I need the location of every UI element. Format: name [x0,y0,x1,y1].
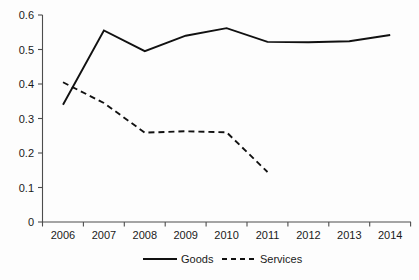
y-tick-label: 0.3 [19,113,34,125]
chart-legend: Goods Services [143,253,303,265]
legend-label-goods: Goods [181,253,214,265]
x-tick-label: 2007 [92,229,116,241]
y-tick-label: 0.1 [19,182,34,194]
y-tick-label: 0.4 [19,78,34,90]
x-tick-label: 2008 [133,229,157,241]
line-chart: 0 0.1 0.2 0.3 0.4 0.5 0.6 2006 2007 2008 [0,0,419,280]
x-tick-label: 2013 [337,229,361,241]
y-tick-label: 0.5 [19,44,34,56]
x-tick-label: 2014 [378,229,402,241]
x-tick-label: 2010 [214,229,238,241]
series-line-services [63,82,268,172]
y-tick-label: 0.6 [19,9,34,21]
y-axis-tick-labels: 0 0.1 0.2 0.3 0.4 0.5 0.6 [19,9,34,228]
series-line-goods [63,28,390,105]
chart-canvas: 0 0.1 0.2 0.3 0.4 0.5 0.6 2006 2007 2008 [0,0,419,280]
legend-label-services: Services [260,253,303,265]
y-tick-label: 0 [28,216,34,228]
x-axis-ticks [43,222,411,227]
x-tick-label: 2012 [296,229,320,241]
y-axis-ticks [38,15,43,222]
x-tick-label: 2011 [256,229,280,241]
x-tick-label: 2006 [51,229,75,241]
x-axis-tick-labels: 2006 2007 2008 2009 2010 2011 2012 2013 … [51,229,403,241]
x-tick-label: 2009 [173,229,197,241]
y-tick-label: 0.2 [19,147,34,159]
